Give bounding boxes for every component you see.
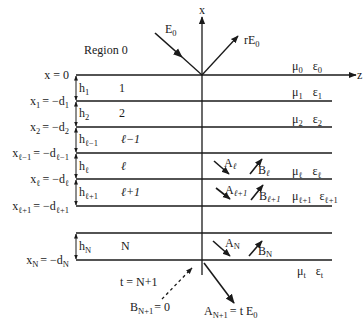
- incident-wave-arrow: [155, 33, 182, 57]
- medium-0-params: μ0ε0: [292, 59, 322, 75]
- thickness-hl+1: hℓ+1: [79, 185, 98, 201]
- thickness-hN: hN: [79, 239, 91, 255]
- medium-1-params: μ1ε1: [292, 85, 322, 101]
- layer-index-2: 2: [119, 106, 125, 120]
- thickness-hl: hℓ: [79, 159, 89, 175]
- incident-wave-label: E0: [165, 22, 177, 38]
- thickness-h2: h2: [79, 106, 89, 122]
- layer-labels: h1 1 h2 2 hℓ−1 ℓ−1 hℓ ℓ hℓ+1 ℓ+1 hN N: [79, 81, 140, 255]
- reflected-wave-label: rE0: [244, 33, 260, 49]
- media-parameters: μ0ε0 μ1ε1 μ2ε2 μℓεℓ μℓ+1εℓ+1 μtεt: [292, 59, 338, 280]
- thickness-hl-1: hℓ−1: [79, 132, 98, 148]
- medium-t-params: μtεt: [297, 264, 324, 280]
- zero-backward-wave-arrow: [162, 268, 192, 299]
- boundary-label-l+1: xℓ+1= −dℓ+1: [12, 199, 69, 215]
- layer-waves: Aℓ Bℓ Aℓ+1 Bℓ+1 AN BN: [213, 156, 281, 259]
- boundary-label-2: x2= −d2: [30, 120, 69, 136]
- layered-medium-diagram: x z Region 0 E0 rE0 x = 0 x1= −d1 x2= −d…: [0, 0, 364, 327]
- transmitted-wave-arrow: [204, 263, 234, 303]
- transmitted-wave-label: AN+1= t E0: [204, 304, 258, 320]
- medium-l+1-params: μℓ+1εℓ+1: [292, 189, 338, 205]
- boundary-label-1: x1= −d1: [30, 94, 69, 110]
- wave-B-N-label: BN: [258, 244, 272, 259]
- z-axis-label: z: [357, 68, 362, 82]
- wave-B-l+1-label: Bℓ+1: [259, 189, 281, 204]
- wave-A-N-label: AN: [225, 236, 240, 251]
- wave-A-l+1-label: Aℓ+1: [225, 183, 247, 198]
- wave-B-l-label: Bℓ: [258, 163, 270, 178]
- boundary-label-l: xℓ= −dℓ: [30, 172, 69, 188]
- medium-l-params: μℓεℓ: [292, 164, 322, 180]
- medium-2-params: μ2ε2: [292, 112, 322, 128]
- region-0-label: Region 0: [84, 43, 128, 57]
- reflected-wave-arrow: [202, 36, 238, 75]
- x-axis-label: x: [199, 3, 205, 17]
- layer-index-N: N: [121, 239, 130, 253]
- boundary-label-0: x = 0: [44, 68, 69, 82]
- thickness-h1: h1: [79, 81, 89, 97]
- layer-index-l+1: ℓ+1: [121, 185, 140, 199]
- boundary-label-l-1: xℓ−1= −dℓ−1: [12, 146, 69, 162]
- transmitted-region-label: t = N+1: [120, 275, 158, 289]
- boundary-labels: x = 0 x1= −d1 x2= −d2 xℓ−1= −dℓ−1 xℓ= −d…: [12, 68, 69, 269]
- zero-backward-wave-label: BN+1= 0: [130, 300, 170, 316]
- wave-A-l-label: Aℓ: [224, 156, 237, 171]
- boundary-label-N: xN= −dN: [26, 253, 69, 269]
- layer-index-1: 1: [119, 81, 125, 95]
- layer-index-l-1: ℓ−1: [121, 132, 140, 146]
- layer-index-l: ℓ: [121, 159, 126, 173]
